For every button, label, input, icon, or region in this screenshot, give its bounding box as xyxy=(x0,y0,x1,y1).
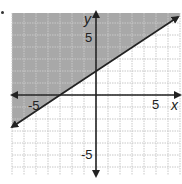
y-tick-label-neg5: -5 xyxy=(81,148,93,161)
y-axis-label: y xyxy=(84,12,91,26)
x-tick-label-neg5: -5 xyxy=(28,99,40,112)
x-axis-label: x xyxy=(171,98,178,112)
x-tick-label-5: 5 xyxy=(152,98,159,111)
y-tick-label-5: 5 xyxy=(85,31,92,44)
